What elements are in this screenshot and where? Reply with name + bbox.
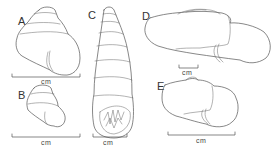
panel-d: D cm [142, 9, 270, 76]
panel-label-c: C [88, 9, 96, 21]
scale-label-d: cm [182, 69, 192, 76]
scale-bar-c: cm [93, 134, 127, 146]
shell-c-drawing [93, 7, 134, 138]
scale-bar-b: cm [12, 134, 80, 146]
scale-bar-d: cm [179, 65, 198, 76]
panel-c: C cm [88, 7, 134, 146]
panel-b: B cm [12, 85, 80, 146]
scale-bar-a: cm [12, 74, 80, 85]
panel-label-e: E [157, 80, 164, 92]
shell-a-drawing [16, 7, 80, 75]
scale-label-a: cm [41, 78, 51, 85]
panel-label-d: D [142, 10, 150, 22]
shell-illustration-plate: A cm B cm C [0, 0, 277, 153]
panel-e: E cm [157, 77, 238, 144]
panel-label-b: B [18, 89, 25, 101]
shell-d-drawing [145, 9, 270, 63]
scale-bar-e: cm [168, 132, 235, 144]
shell-b-drawing [27, 85, 65, 127]
scale-label-e: cm [196, 137, 206, 144]
shell-e-drawing [162, 77, 238, 127]
scale-label-c: cm [103, 139, 113, 146]
scale-label-b: cm [41, 139, 51, 146]
panel-a: A cm [12, 7, 80, 85]
